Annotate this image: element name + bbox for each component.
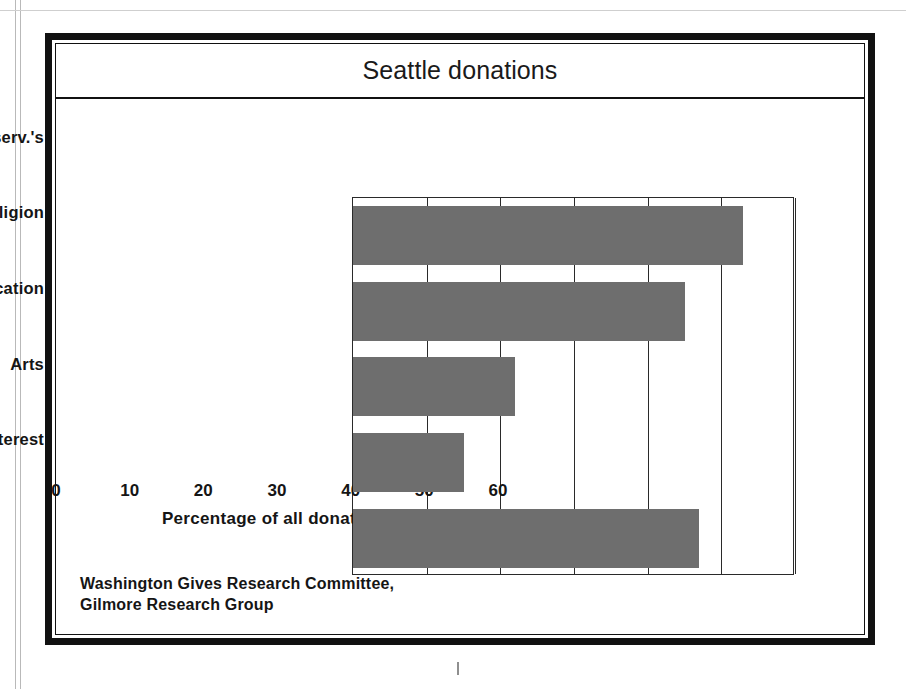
plot-area: [352, 197, 794, 575]
bars-layer: [353, 198, 793, 574]
x-tick-0: 0: [51, 481, 60, 501]
bar-band: [353, 349, 793, 425]
bar-4: [353, 433, 464, 492]
figure-inner-border: Seattle donations Health/human serv.'sCh…: [55, 43, 865, 635]
bar-1: [353, 206, 743, 265]
figure-frame: Seattle donations Health/human serv.'sCh…: [45, 33, 875, 645]
title-band: Seattle donations: [56, 44, 864, 99]
bar-3: [353, 357, 515, 416]
y-axis-label-5: More than 1 interest: [0, 430, 44, 449]
x-tick-20: 20: [194, 481, 213, 501]
bar-band: [353, 500, 793, 576]
page-rule-top: [0, 10, 906, 11]
source-note-line-2: Gilmore Research Group: [80, 594, 394, 616]
bar-2: [353, 282, 685, 341]
figure-body: Health/human serv.'sChurch/religionEduca…: [56, 99, 864, 634]
source-note-line-1: Washington Gives Research Committee,: [80, 573, 394, 595]
y-axis-category-labels: Health/human serv.'sChurch/religionEduca…: [0, 99, 44, 477]
x-tick-10: 10: [120, 481, 139, 501]
bar-band: [353, 274, 793, 350]
y-axis-label-2: Church/religion: [0, 203, 44, 222]
y-axis-label-1: Health/human serv.'s: [0, 127, 44, 146]
y-axis-label-4: Arts: [10, 354, 44, 373]
bar-5: [353, 509, 699, 568]
bar-band: [353, 198, 793, 274]
page-tick-mark: [457, 662, 459, 675]
gridline-60: [795, 198, 796, 574]
y-axis-label-3: Education: [0, 279, 44, 298]
chart-title: Seattle donations: [363, 56, 558, 85]
bar-band: [353, 425, 793, 501]
x-tick-30: 30: [268, 481, 287, 501]
source-note: Washington Gives Research Committee,Gilm…: [80, 573, 394, 616]
x-tick-60: 60: [489, 481, 508, 501]
